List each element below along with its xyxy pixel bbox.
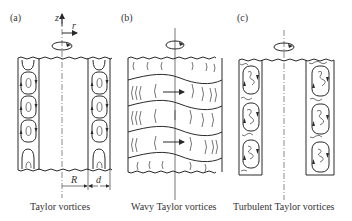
vortex-cells-right bbox=[91, 60, 109, 169]
caption-taylor-vortices: Taylor vortices bbox=[30, 201, 90, 212]
r-axis-label: r bbox=[72, 20, 76, 31]
taylor-couette-figure: (a) z r bbox=[0, 0, 352, 221]
panel-b-tag: (b) bbox=[121, 12, 133, 24]
panel-a-tag: (a) bbox=[10, 12, 21, 24]
dim-d-label: d bbox=[96, 174, 102, 185]
panel-c-tag: (c) bbox=[237, 12, 248, 24]
dim-R-label: R bbox=[70, 174, 77, 185]
caption-turbulent-taylor-vortices: Turbulent Taylor vortices bbox=[233, 201, 335, 212]
panel-a: (a) z r bbox=[10, 12, 112, 212]
bottom-boundary bbox=[18, 169, 112, 171]
z-axis-label: z bbox=[54, 12, 59, 23]
top-boundary bbox=[128, 57, 216, 59]
bottom-boundary bbox=[128, 171, 216, 173]
top-boundary bbox=[18, 57, 112, 59]
top-boundary bbox=[239, 59, 334, 61]
vortex-cells-left bbox=[20, 60, 38, 169]
panel-b: (b) Wavy Taylor vortices bbox=[121, 12, 222, 212]
caption-wavy-taylor-vortices: Wavy Taylor vortices bbox=[131, 201, 217, 212]
turbulent-cells-left bbox=[240, 63, 259, 171]
turbulent-cells-right bbox=[309, 61, 329, 172]
panel-c: (c) bbox=[233, 12, 335, 212]
flow-streaks bbox=[132, 62, 218, 172]
